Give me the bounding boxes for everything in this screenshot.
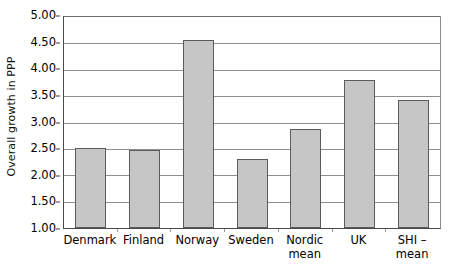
y-axis-tick-mark	[56, 122, 60, 123]
x-axis-tick-mark	[385, 229, 386, 232]
y-axis-tick-mark	[56, 175, 60, 176]
y-axis-title: Overall growth in PPP	[0, 0, 22, 232]
y-axis-tick-label: 2.00	[30, 170, 56, 182]
y-axis-tick-label: 4.50	[30, 37, 56, 49]
x-axis-category-label: Norway	[175, 233, 219, 247]
plot-area	[63, 16, 441, 229]
y-axis-tick-labels: 5.004.504.003.503.002.502.001.501.00	[20, 16, 60, 229]
x-axis-category-label: SHI – mean	[396, 233, 429, 261]
x-axis-tick-mark	[332, 229, 333, 232]
y-axis-tick-label: 1.50	[30, 197, 56, 209]
y-axis-tick-label: 4.00	[30, 64, 56, 76]
x-axis-tick-mark	[278, 229, 279, 232]
y-axis-tick-label: 2.50	[30, 143, 56, 155]
bar	[344, 80, 375, 228]
y-axis-tick-label: 3.00	[30, 117, 56, 129]
x-axis-category-label: Denmark	[63, 233, 116, 247]
x-axis-category-label: Finland	[123, 233, 164, 247]
y-axis-tick-mark	[56, 42, 60, 43]
y-axis-tick-mark	[56, 16, 60, 17]
bar	[183, 40, 214, 228]
y-axis-tick-label: 3.50	[30, 90, 56, 102]
bar	[129, 150, 160, 228]
x-axis-tick-mark	[117, 229, 118, 232]
y-axis-tick-mark	[56, 202, 60, 203]
y-axis-tick-mark	[56, 229, 60, 230]
bar	[290, 129, 321, 228]
y-axis-tick-label: 5.00	[30, 10, 56, 22]
bar	[237, 159, 268, 228]
y-axis-title-text: Overall growth in PPP	[5, 56, 18, 176]
y-axis-tick-mark	[56, 69, 60, 70]
x-axis-tick-mark	[170, 229, 171, 232]
bar	[75, 148, 106, 228]
bar-chart: Overall growth in PPP 5.004.504.003.503.…	[0, 0, 454, 279]
y-axis-tick-label: 1.00	[30, 223, 56, 235]
x-axis-category-label: UK	[350, 233, 366, 247]
x-axis-tick-mark	[224, 229, 225, 232]
y-axis-tick-mark	[56, 95, 60, 96]
x-axis-category-label: Sweden	[228, 233, 273, 247]
x-axis-category-labels: DenmarkFinlandNorwaySwedenNordic meanUKS…	[63, 233, 441, 277]
y-axis-tick-mark	[56, 149, 60, 150]
bars-layer	[64, 17, 440, 228]
x-axis-category-label: Nordic mean	[286, 233, 323, 261]
bar	[398, 100, 429, 228]
